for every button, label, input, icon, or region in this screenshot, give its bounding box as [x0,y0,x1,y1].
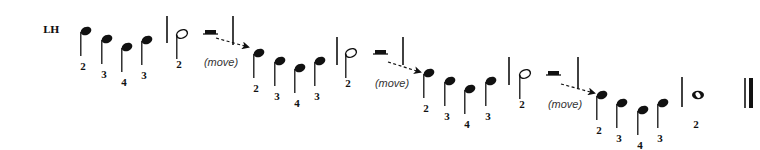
move-instruction: (move) [548,98,583,110]
quarter-note: 4 [636,104,650,150]
quarter-note: 3 [484,75,498,122]
move-instruction: (move) [375,77,410,89]
quarter-note: 2 [595,89,609,136]
thick-barline [749,78,753,108]
half-note: 2 [175,28,189,70]
finger-number: 3 [485,110,491,122]
quarter-note: 4 [120,41,134,88]
quarter-note: 4 [293,62,307,109]
dashed-arrow-icon [388,62,420,72]
fingering-exercise-score: LH 23432(move)23432(move)23432(move)2343… [0,0,760,150]
finger-number: 2 [253,82,259,94]
finger-number: 3 [141,69,147,81]
finger-number: 2 [693,118,699,130]
quarter-note: 2 [422,67,436,114]
finger-number: 3 [657,132,663,144]
quarter-note: 2 [79,25,93,72]
finger-number: 3 [101,68,107,80]
finger-number: 4 [464,118,470,130]
finger-number: 2 [176,58,182,70]
finger-number: 3 [444,110,450,122]
quarter-note: 2 [252,47,266,94]
finger-number: 2 [80,60,86,72]
finger-number: 4 [294,97,300,109]
quarter-note: 3 [100,33,114,80]
finger-number: 2 [423,102,429,114]
final-double-barline [745,78,753,108]
dashed-arrow-icon [216,38,248,47]
move-instruction: (move) [204,56,239,68]
half-note: 2 [518,68,532,110]
quarter-note: 3 [656,97,670,144]
hand-label: LH [43,24,59,35]
whole-note: 2 [692,91,704,130]
finger-number: 3 [616,132,622,144]
finger-number: 2 [596,124,602,136]
finger-number: 3 [314,90,320,102]
quarter-note: 3 [140,34,154,81]
finger-number: 4 [121,76,127,88]
quarter-note: 3 [615,97,629,144]
finger-number: 4 [637,139,643,150]
quarter-note: 3 [443,75,457,122]
measure-group-1: 23432(move) [79,16,248,88]
notation-layer: 23432(move)23432(move)23432(move)23432 [79,16,753,150]
measure-group-2: 23432(move) [252,37,420,109]
quarter-note: 3 [273,55,287,102]
quarter-note: 3 [313,55,327,102]
measure-group-3: 23432(move) [422,57,594,130]
measure-group-4: 23432 [595,77,704,150]
finger-number: 3 [274,90,280,102]
finger-number: 2 [345,77,351,89]
half-note: 2 [344,47,358,89]
finger-number: 2 [519,98,525,110]
quarter-note: 4 [463,83,477,130]
